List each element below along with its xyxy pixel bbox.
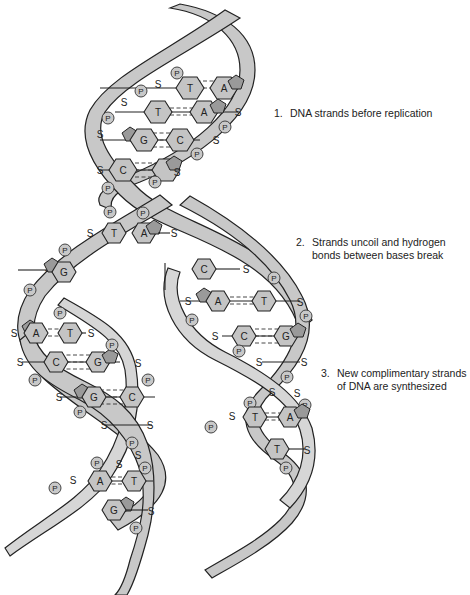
svg-text:A: A: [141, 228, 148, 239]
svg-text:G: G: [60, 267, 68, 278]
svg-text:P: P: [140, 209, 145, 218]
caption-step-2: 2.Strands uncoil and hydrogen bonds betw…: [296, 236, 446, 262]
svg-text:S: S: [243, 264, 250, 275]
svg-text:P: P: [129, 439, 134, 448]
svg-text:P: P: [189, 316, 194, 325]
svg-text:S: S: [116, 459, 123, 470]
svg-text:G: G: [94, 357, 102, 368]
svg-text:P: P: [138, 87, 143, 96]
svg-text:P: P: [271, 274, 276, 283]
svg-text:S: S: [88, 328, 95, 339]
svg-text:T: T: [274, 444, 280, 455]
svg-text:A: A: [33, 328, 40, 339]
svg-text:P: P: [57, 309, 62, 318]
svg-text:T: T: [261, 296, 267, 307]
svg-text:P: P: [194, 150, 199, 159]
svg-text:T: T: [131, 476, 137, 487]
svg-text:P: P: [236, 347, 241, 356]
svg-text:S: S: [97, 165, 104, 176]
svg-text:S: S: [135, 450, 142, 461]
svg-text:P: P: [222, 123, 227, 132]
svg-text:P: P: [77, 408, 82, 417]
svg-text:G: G: [110, 505, 118, 516]
svg-text:S: S: [297, 297, 304, 308]
svg-text:P: P: [107, 208, 112, 217]
svg-text:P: P: [303, 312, 308, 321]
svg-text:S: S: [87, 228, 94, 239]
base-label: T: [187, 83, 193, 94]
svg-text:S: S: [235, 107, 242, 118]
svg-text:T: T: [67, 328, 73, 339]
svg-text:P: P: [109, 341, 114, 350]
svg-text:P: P: [174, 69, 179, 78]
svg-text:C: C: [128, 392, 135, 403]
svg-text:S: S: [301, 357, 308, 368]
svg-text:P: P: [105, 114, 110, 123]
svg-text:S: S: [155, 79, 162, 90]
svg-text:C: C: [52, 357, 59, 368]
svg-text:A: A: [201, 107, 208, 118]
svg-text:S: S: [185, 296, 192, 307]
caption-step-1: 1.DNA strands before replication: [274, 107, 432, 120]
svg-text:C: C: [119, 165, 126, 176]
svg-text:S: S: [17, 357, 24, 368]
dna-replication-diagram: T A T A G C C P S P S P S: [0, 0, 470, 595]
svg-text:P: P: [142, 464, 147, 473]
svg-text:P: P: [27, 286, 32, 295]
svg-text:P: P: [284, 373, 289, 382]
svg-text:S: S: [212, 331, 219, 342]
svg-text:P: P: [247, 399, 252, 408]
svg-text:T: T: [252, 412, 258, 423]
svg-text:S: S: [101, 420, 108, 431]
svg-text:S: S: [171, 228, 178, 239]
svg-text:S: S: [147, 420, 154, 431]
svg-text:P: P: [145, 376, 150, 385]
caption-step-3: 3.New complimentary strands of DNA are s…: [321, 367, 467, 393]
svg-text:S: S: [56, 392, 63, 403]
svg-text:P: P: [52, 484, 57, 493]
svg-text:T: T: [155, 107, 161, 118]
svg-text:P: P: [283, 464, 288, 473]
svg-text:P: P: [152, 178, 157, 187]
svg-text:G: G: [90, 392, 98, 403]
svg-text:T: T: [111, 228, 117, 239]
svg-text:A: A: [97, 476, 104, 487]
svg-text:G: G: [140, 135, 148, 146]
svg-text:A: A: [287, 412, 294, 423]
svg-text:P: P: [32, 376, 37, 385]
svg-text:S: S: [11, 328, 18, 339]
svg-text:S: S: [294, 388, 301, 399]
svg-text:P: P: [105, 184, 110, 193]
svg-text:S: S: [148, 506, 155, 517]
svg-text:S: S: [213, 135, 220, 146]
svg-text:A: A: [215, 296, 222, 307]
svg-text:S: S: [174, 167, 181, 178]
svg-text:P: P: [208, 423, 213, 432]
base-label: A: [221, 83, 228, 94]
svg-text:S: S: [97, 129, 104, 140]
svg-text:P: P: [62, 246, 67, 255]
svg-text:S: S: [121, 97, 128, 108]
svg-text:P: P: [94, 459, 99, 468]
svg-text:S: S: [304, 445, 311, 456]
svg-text:S: S: [70, 475, 77, 486]
svg-text:G: G: [282, 331, 290, 342]
svg-text:C: C: [240, 331, 247, 342]
svg-text:S: S: [229, 411, 236, 422]
svg-text:S: S: [256, 357, 263, 368]
svg-text:C: C: [200, 264, 207, 275]
svg-text:S: S: [135, 358, 142, 369]
svg-text:P: P: [133, 524, 138, 533]
svg-text:S: S: [269, 387, 276, 398]
svg-text:C: C: [176, 135, 183, 146]
